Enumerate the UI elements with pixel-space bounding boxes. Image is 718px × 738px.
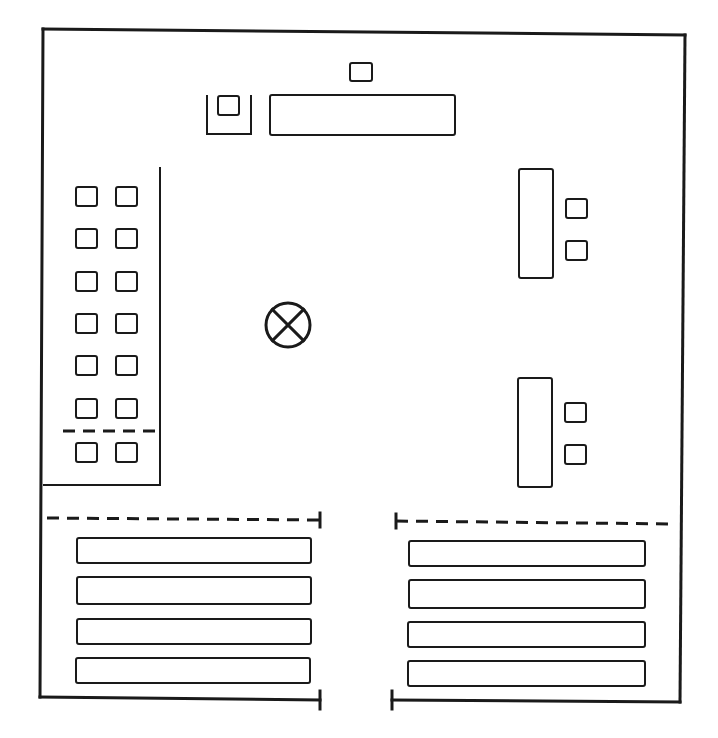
dashed-boundary <box>396 521 676 524</box>
circle-x-icon <box>266 303 310 347</box>
right-workstations <box>518 169 587 487</box>
seat <box>76 443 97 462</box>
seat <box>76 399 97 418</box>
workstation-seat <box>566 241 587 260</box>
alcove-seat <box>218 96 239 115</box>
workstation-seat <box>565 445 586 464</box>
wall-top <box>43 29 685 35</box>
bench <box>409 541 645 566</box>
seat <box>116 187 137 206</box>
seat <box>76 272 97 291</box>
bench <box>77 538 311 563</box>
workstation-seat <box>565 403 586 422</box>
seat <box>76 229 97 248</box>
seat <box>116 272 137 291</box>
bench <box>76 658 310 683</box>
floor-plan <box>0 0 718 738</box>
wall-bottom-right <box>392 700 680 702</box>
dashed-boundary <box>47 518 320 520</box>
seat <box>76 187 97 206</box>
front-area <box>207 63 455 135</box>
wall-bottom-left <box>40 697 320 700</box>
wall-left <box>40 29 43 697</box>
workstation-table <box>519 169 553 278</box>
bench <box>77 577 311 604</box>
bottom-right-bench-rows <box>396 514 676 686</box>
bottom-left-bench-rows <box>47 513 320 683</box>
seat <box>116 443 137 462</box>
workstation-table <box>518 378 552 487</box>
seat <box>116 229 137 248</box>
front-table <box>270 95 455 135</box>
left-seating-enclosure <box>43 167 160 485</box>
seat <box>116 356 137 375</box>
wall-right <box>680 35 685 702</box>
bench <box>408 622 645 647</box>
seat <box>116 399 137 418</box>
workstation-seat <box>566 199 587 218</box>
seat <box>116 314 137 333</box>
small-box <box>350 63 372 81</box>
bench <box>408 661 645 686</box>
enclosure-wall <box>43 167 160 485</box>
seat <box>76 356 97 375</box>
bench <box>409 580 645 608</box>
bench <box>77 619 311 644</box>
seat <box>76 314 97 333</box>
